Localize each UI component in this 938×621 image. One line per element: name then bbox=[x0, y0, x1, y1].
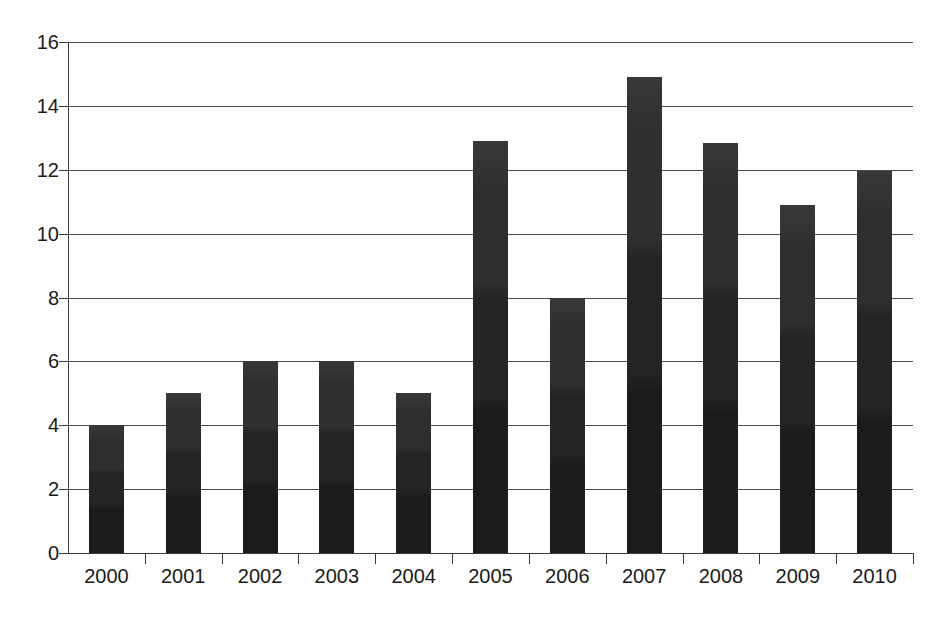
bar-2009 bbox=[780, 205, 815, 553]
x-tick-mark bbox=[145, 553, 146, 564]
y-tick-label: 6 bbox=[48, 351, 59, 371]
y-tick-label: 2 bbox=[48, 479, 59, 499]
x-tick-mark bbox=[913, 553, 914, 564]
x-tick-mark bbox=[836, 553, 837, 564]
x-axis-label-2002: 2002 bbox=[238, 566, 283, 586]
bar-2006 bbox=[550, 298, 585, 554]
y-tick-mark bbox=[59, 298, 68, 299]
bar-2010 bbox=[857, 171, 892, 553]
x-tick-mark bbox=[683, 553, 684, 564]
bar-2003 bbox=[319, 361, 354, 553]
x-axis-label-2005: 2005 bbox=[468, 566, 513, 586]
y-tick-mark bbox=[59, 234, 68, 235]
y-tick-label: 12 bbox=[37, 160, 59, 180]
y-tick-mark bbox=[59, 489, 68, 490]
y-tick-mark bbox=[59, 106, 68, 107]
x-tick-mark bbox=[606, 553, 607, 564]
y-tick-label: 8 bbox=[48, 288, 59, 308]
bar-2001 bbox=[166, 393, 201, 553]
y-tick-mark bbox=[59, 361, 68, 362]
bar-2008 bbox=[703, 143, 738, 553]
y-tick-mark bbox=[59, 42, 68, 43]
x-tick-mark bbox=[529, 553, 530, 564]
y-tick-mark bbox=[59, 170, 68, 171]
y-tick-label: 14 bbox=[37, 96, 59, 116]
x-axis-label-2007: 2007 bbox=[622, 566, 667, 586]
bar-2007 bbox=[627, 77, 662, 553]
x-tick-mark bbox=[375, 553, 376, 564]
x-axis-label-2006: 2006 bbox=[545, 566, 590, 586]
x-tick-mark bbox=[222, 553, 223, 564]
x-axis-label-2009: 2009 bbox=[776, 566, 821, 586]
x-axis-label-2003: 2003 bbox=[315, 566, 360, 586]
x-axis-label-2010: 2010 bbox=[852, 566, 897, 586]
x-axis-label-2000: 2000 bbox=[84, 566, 129, 586]
plot-area bbox=[68, 42, 913, 553]
y-tick-label: 16 bbox=[37, 32, 59, 52]
y-tick-label: 4 bbox=[48, 415, 59, 435]
x-axis-label-2004: 2004 bbox=[391, 566, 436, 586]
x-axis-label-2001: 2001 bbox=[161, 566, 206, 586]
bar-chart: 0246810121416 20002001200220032004200520… bbox=[0, 0, 938, 621]
gridline-14 bbox=[68, 106, 913, 107]
y-tick-label: 0 bbox=[48, 543, 59, 563]
x-tick-mark bbox=[452, 553, 453, 564]
bar-2005 bbox=[473, 141, 508, 553]
x-tick-mark bbox=[759, 553, 760, 564]
y-tick-mark bbox=[59, 425, 68, 426]
x-axis-line bbox=[68, 553, 914, 554]
y-tick-label: 10 bbox=[37, 224, 59, 244]
x-tick-mark bbox=[298, 553, 299, 564]
bar-2000 bbox=[89, 425, 124, 553]
y-axis-line bbox=[68, 42, 69, 554]
x-axis-label-2008: 2008 bbox=[699, 566, 744, 586]
bar-2004 bbox=[396, 393, 431, 553]
y-tick-mark bbox=[59, 553, 68, 554]
gridline-16 bbox=[68, 42, 913, 43]
bar-2002 bbox=[243, 361, 278, 553]
